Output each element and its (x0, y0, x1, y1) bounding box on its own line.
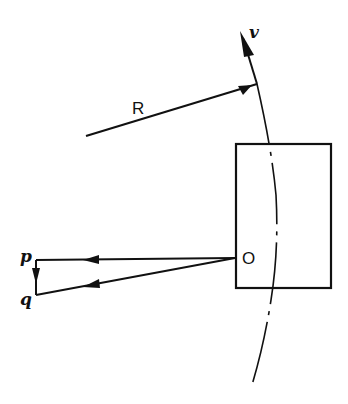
p-label: p (20, 246, 32, 266)
o-label: O (242, 249, 255, 268)
q-label: q (20, 289, 32, 309)
r-vector (86, 84, 257, 136)
oq-vector (36, 258, 235, 295)
oq-arrowhead-icon (83, 279, 100, 288)
circular-arc-path (252, 84, 277, 385)
vector-diagram: R v O p q (0, 0, 348, 404)
r-label: R (132, 99, 144, 118)
op-arrowhead-icon (83, 255, 99, 264)
v-label: v (249, 22, 260, 42)
pq-arrowhead-icon (32, 268, 40, 284)
pq-vector (32, 260, 40, 295)
